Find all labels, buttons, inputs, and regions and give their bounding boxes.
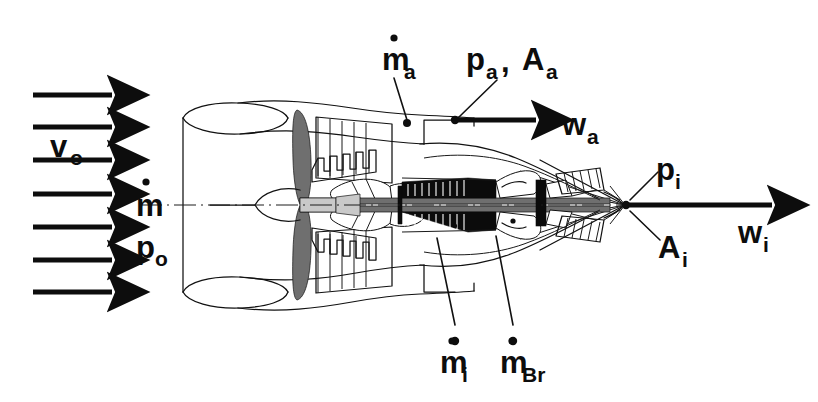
bypass-pressure-sub: a [486, 60, 498, 83]
bypass-label-separator: , [501, 44, 510, 79]
bypass-velocity-base: w [561, 107, 587, 142]
massflow-overdot [142, 178, 149, 185]
bypass-massflow-sub: a [404, 60, 416, 83]
freestream-pressure-base: p [136, 230, 155, 265]
label-core-massflow: m i [440, 337, 468, 386]
core-inlet-marker [453, 224, 457, 228]
fuel-injector-marker [510, 218, 515, 223]
freestream-velocity-sub: o [70, 146, 83, 169]
inlet-flow-arrow-group [33, 95, 112, 292]
freestream-velocity-base: v [50, 129, 68, 164]
freestream-pressure-sub: o [155, 247, 168, 270]
fuel-massflow-overdot [508, 337, 515, 344]
fuel-massflow-sub: Br [522, 363, 545, 386]
engine-diagram-figure: v o m p o m a p a , A a w a p i A i w [0, 0, 818, 402]
bypass-massflow-overdot [390, 34, 397, 41]
core-area-base: A [658, 230, 680, 265]
core-pressure-sub: i [675, 170, 681, 193]
bypass-velocity-sub: a [587, 125, 599, 148]
freestream-massflow-base: m [136, 188, 164, 223]
bypass-area-base: A [522, 42, 544, 77]
bypass-massflow-dot [403, 119, 411, 127]
core-area-sub: i [682, 248, 688, 271]
bypass-pressure-base: p [466, 42, 485, 77]
core-velocity-base: w [737, 215, 763, 250]
core-pressure-base: p [656, 152, 675, 187]
core-velocity-sub: i [763, 233, 769, 256]
core-massflow-overdot [448, 337, 455, 344]
core-massflow-sub: i [462, 363, 468, 386]
diagram-canvas: v o m p o m a p a , A a w a p i A i w [0, 0, 818, 402]
bypass-area-sub: a [546, 60, 558, 83]
